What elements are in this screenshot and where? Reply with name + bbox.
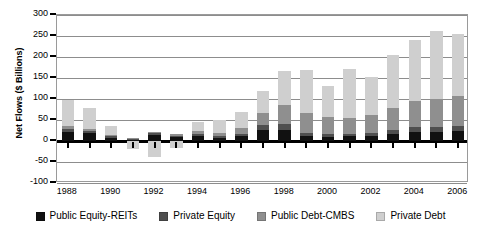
x-axis-tick-mark (219, 142, 221, 148)
bar-segment (213, 138, 226, 141)
y-axis-tick-label: 50 (0, 114, 48, 123)
bar-segment (278, 130, 291, 141)
bar-segment (127, 138, 140, 139)
x-axis-tick-mark (67, 142, 69, 148)
bar-stack[interactable] (148, 15, 161, 181)
bar-segment (105, 138, 118, 141)
x-axis-tick-label: 1998 (264, 186, 304, 197)
bar-segment (62, 100, 75, 126)
bar-segment (213, 120, 226, 133)
bar-segment (62, 129, 75, 132)
x-axis-tick-label: 1994 (177, 186, 217, 197)
bar-stack[interactable] (235, 15, 248, 181)
x-axis-tick-labels: 1988199019921994199619982000200220042006 (56, 186, 468, 200)
chart-legend: Public Equity-REITsPrivate EquityPublic … (0, 206, 481, 226)
bar-stack[interactable] (192, 15, 205, 181)
y-axis-tick-label: -50 (0, 156, 48, 165)
y-axis-tick-label: 250 (0, 30, 48, 39)
x-axis-tick-label: 1990 (90, 186, 130, 197)
y-axis-tick-label: 300 (0, 9, 48, 18)
legend-label: Public Debt-CMBS (271, 211, 354, 221)
bar-stack[interactable] (430, 15, 443, 181)
bar-segment (192, 136, 205, 141)
legend-label: Private Equity (173, 211, 235, 221)
x-axis-tick-label: 1996 (220, 186, 260, 197)
bar-segment (62, 126, 75, 129)
bar-segment (343, 118, 356, 134)
bar-segment (83, 131, 96, 133)
bar-stack[interactable] (300, 15, 313, 181)
bar-stack[interactable] (387, 15, 400, 181)
bar-stack[interactable] (409, 15, 422, 181)
bar-stack[interactable] (322, 15, 335, 181)
bar-segment (365, 115, 378, 133)
bar-segment (235, 134, 248, 136)
legend-label: Public Equity-REITs (50, 211, 138, 221)
bar-segment (257, 113, 270, 124)
bar-segment (278, 124, 291, 130)
bar-series-group (57, 15, 467, 181)
bar-segment (409, 101, 422, 127)
legend-item[interactable]: Public Debt-CMBS (257, 211, 354, 221)
bar-segment (452, 131, 465, 141)
x-axis-tick-mark (89, 142, 91, 148)
legend-item[interactable]: Private Equity (159, 211, 235, 221)
x-axis-tick-mark (435, 142, 437, 148)
bar-segment (343, 136, 356, 141)
bar-segment (409, 132, 422, 141)
bar-stack[interactable] (257, 15, 270, 181)
bar-segment (170, 134, 183, 135)
bar-segment (213, 136, 226, 138)
gridline (57, 183, 467, 184)
legend-swatch-icon (376, 212, 385, 221)
bar-segment (300, 113, 313, 133)
bar-segment (452, 34, 465, 96)
bar-segment (170, 136, 183, 137)
x-axis-tick-mark (327, 142, 329, 148)
bar-stack[interactable] (213, 15, 226, 181)
bar-stack[interactable] (62, 15, 75, 181)
plot-area (56, 14, 468, 182)
legend-item[interactable]: Private Debt (376, 211, 445, 221)
bar-segment (387, 55, 400, 108)
bar-stack[interactable] (452, 15, 465, 181)
bar-segment (343, 69, 356, 119)
bar-stack[interactable] (105, 15, 118, 181)
x-axis-tick-mark (240, 142, 242, 148)
bar-segment (105, 135, 118, 137)
bar-segment (387, 108, 400, 130)
bar-segment (343, 134, 356, 136)
bar-stack[interactable] (170, 15, 183, 181)
bar-segment (235, 128, 248, 134)
bar-segment (213, 133, 226, 137)
bar-segment (322, 117, 335, 134)
bar-segment (452, 96, 465, 126)
bar-segment (387, 130, 400, 134)
x-axis-tick-mark (154, 142, 156, 148)
bar-segment (148, 133, 161, 135)
bar-segment (365, 136, 378, 141)
x-axis-tick-label: 1988 (47, 186, 87, 197)
legend-swatch-icon (257, 212, 266, 221)
bar-stack[interactable] (127, 15, 140, 181)
bar-stack[interactable] (365, 15, 378, 181)
y-axis-tick-label: 0 (0, 135, 48, 144)
bar-segment (257, 91, 270, 114)
bar-segment (62, 132, 75, 141)
bar-segment (105, 136, 118, 137)
x-axis-tick-mark (197, 142, 199, 148)
bar-segment (192, 122, 205, 131)
x-axis-tick-mark (370, 142, 372, 148)
x-axis-tick-mark (305, 142, 307, 148)
bar-segment (83, 129, 96, 131)
bar-stack[interactable] (343, 15, 356, 181)
legend-item[interactable]: Public Equity-REITs (36, 211, 138, 221)
bar-stack[interactable] (278, 15, 291, 181)
x-axis-tick-label: 1992 (134, 186, 174, 197)
bar-stack[interactable] (83, 15, 96, 181)
bar-segment (127, 139, 140, 140)
x-axis-tick-label: 2004 (394, 186, 434, 197)
bar-segment (83, 133, 96, 141)
bar-segment (235, 136, 248, 141)
bar-segment (387, 134, 400, 141)
